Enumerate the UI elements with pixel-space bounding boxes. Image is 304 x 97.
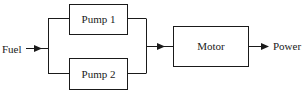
power-label: Power bbox=[273, 40, 301, 52]
motor-label: Motor bbox=[174, 40, 248, 52]
fuel-label: Fuel bbox=[2, 43, 22, 55]
fuel-arrow-icon bbox=[34, 45, 42, 52]
power-arrow-icon bbox=[261, 43, 269, 50]
motor-input-arrow-icon bbox=[157, 43, 165, 50]
pump1-label: Pump 1 bbox=[70, 13, 127, 25]
pump2-label: Pump 2 bbox=[70, 68, 127, 80]
block-diagram bbox=[0, 0, 304, 97]
